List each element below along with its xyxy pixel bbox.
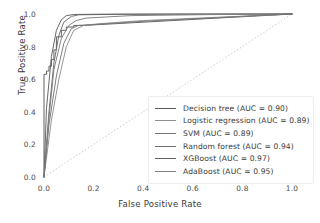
legend-item-adaboost[interactable]: AdaBoost (AUC = 0.95): [153, 165, 308, 178]
legend-line-swatch: [155, 120, 176, 121]
legend-line-swatch: [155, 158, 176, 159]
legend-label: XGBoost (AUC = 0.97): [183, 154, 270, 163]
x-tick-0.8: 0.8: [230, 184, 254, 193]
x-axis-label: False Positive Rate: [0, 199, 320, 209]
legend: Decision tree (AUC = 0.90)Logistic regre…: [148, 96, 314, 184]
x-tick-1.0: 1.0: [280, 184, 304, 193]
legend-label: AdaBoost (AUC = 0.95): [183, 167, 274, 176]
x-tick-0.0: 0.0: [32, 184, 56, 193]
legend-label: SVM (AUC = 0.89): [183, 129, 254, 138]
legend-item-random-forest[interactable]: Random forest (AUC = 0.94): [153, 140, 308, 153]
legend-line-swatch: [155, 108, 176, 109]
legend-item-xgboost[interactable]: XGBoost (AUC = 0.97): [153, 152, 308, 165]
legend-label: Logistic regression (AUC = 0.89): [183, 116, 310, 125]
y-axis-label: True Positive Rate: [17, 0, 27, 125]
legend-item-svm[interactable]: SVM (AUC = 0.89): [153, 127, 308, 140]
legend-line-swatch: [155, 171, 176, 172]
x-tick-0.6: 0.6: [181, 184, 205, 193]
roc-curve-figure: 0.00.20.40.60.81.0 0.00.20.40.60.81.0 Fa…: [0, 0, 320, 223]
legend-label: Random forest (AUC = 0.94): [183, 142, 294, 151]
legend-line-swatch: [155, 133, 176, 134]
legend-line-swatch: [155, 146, 176, 147]
x-tick-0.4: 0.4: [131, 184, 155, 193]
y-tick-0.2: 0.2: [14, 140, 36, 149]
legend-label: Decision tree (AUC = 0.90): [183, 104, 288, 113]
legend-item-logistic-regression[interactable]: Logistic regression (AUC = 0.89): [153, 115, 308, 128]
legend-item-decision-tree[interactable]: Decision tree (AUC = 0.90): [153, 102, 308, 115]
x-tick-0.2: 0.2: [82, 184, 106, 193]
y-tick-0.0: 0.0: [14, 173, 36, 182]
